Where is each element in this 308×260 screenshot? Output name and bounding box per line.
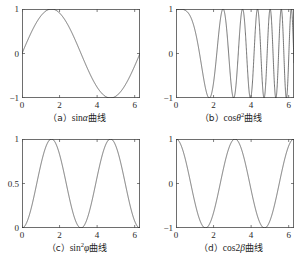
- xtick-label-d-3: 6: [286, 231, 291, 240]
- xtick-label-b-1: 2: [211, 101, 216, 110]
- caption-d-prefix: （d）: [199, 243, 223, 253]
- panel-c: 10.500246 （c）sin2φ曲线: [0, 130, 154, 260]
- ytick-label-a-1: 0: [15, 49, 20, 58]
- caption-b: （b）cosθ2曲线: [154, 113, 308, 124]
- xtick-label-b-2: 4: [249, 101, 254, 110]
- panel-d: 10−10246 （d）cos2β曲线: [154, 130, 308, 260]
- xtick-label-c-1: 2: [57, 231, 62, 240]
- xtick-label-d-2: 4: [249, 231, 254, 240]
- xtick-label-c-3: 6: [132, 231, 137, 240]
- xtick-label-c-0: 0: [20, 231, 25, 240]
- caption-a: （a）sinα曲线: [0, 113, 154, 124]
- plot-area-b: 10−10246: [176, 9, 294, 98]
- panel-b: 10−10246 （b）cosθ2曲线: [154, 0, 308, 130]
- caption-d: （d）cos2β曲线: [154, 243, 308, 254]
- plot-svg-a: [22, 9, 140, 98]
- plot-area-a: 10−10246: [22, 9, 140, 98]
- xtick-label-a-0: 0: [20, 101, 25, 110]
- caption-c-suffix: 曲线: [89, 243, 107, 253]
- caption-c-prefix: （c）: [47, 243, 70, 253]
- plot-svg-b: [176, 9, 294, 98]
- ytick-label-d-0: 1: [169, 135, 174, 144]
- ytick-label-b-0: 1: [169, 5, 174, 14]
- caption-c: （c）sin2φ曲线: [0, 243, 154, 254]
- ytick-label-d-1: 0: [169, 179, 174, 188]
- ytick-label-c-0: 1: [15, 135, 20, 144]
- caption-a-suffix: 曲线: [88, 113, 106, 123]
- xtick-label-b-0: 0: [174, 101, 179, 110]
- xtick-label-d-0: 0: [174, 231, 179, 240]
- ytick-label-a-0: 1: [15, 5, 20, 14]
- xtick-label-a-2: 4: [95, 101, 100, 110]
- caption-c-func: sin: [70, 243, 81, 253]
- ytick-label-c-1: 0.5: [8, 179, 19, 188]
- caption-a-prefix: （a）: [48, 113, 72, 123]
- ytick-label-a-2: −1: [9, 94, 19, 103]
- plot-svg-c: [22, 139, 140, 228]
- caption-b-suffix: 曲线: [244, 113, 262, 123]
- xtick-label-a-1: 2: [57, 101, 62, 110]
- figure-four-trig-curves: 10−10246 （a）sinα曲线 10−10246 （b）cosθ2曲线 1…: [0, 0, 308, 260]
- caption-b-prefix: （b）: [200, 113, 224, 123]
- plot-svg-d: [176, 139, 294, 228]
- caption-d-func: cos2: [223, 243, 240, 253]
- ytick-label-d-2: −1: [163, 224, 173, 233]
- xtick-label-a-3: 6: [132, 101, 137, 110]
- panel-a: 10−10246 （a）sinα曲线: [0, 0, 154, 130]
- caption-a-func: sin: [72, 113, 83, 123]
- ytick-label-c-2: 0: [15, 224, 20, 233]
- xtick-label-d-1: 2: [211, 231, 216, 240]
- plot-area-d: 10−10246: [176, 139, 294, 228]
- caption-d-suffix: 曲线: [245, 243, 263, 253]
- plot-area-c: 10.500246: [22, 139, 140, 228]
- xtick-label-b-3: 6: [286, 101, 291, 110]
- caption-b-func: cos: [224, 113, 237, 123]
- xtick-label-c-2: 4: [95, 231, 100, 240]
- ytick-label-b-2: −1: [163, 94, 173, 103]
- ytick-label-b-1: 0: [169, 49, 174, 58]
